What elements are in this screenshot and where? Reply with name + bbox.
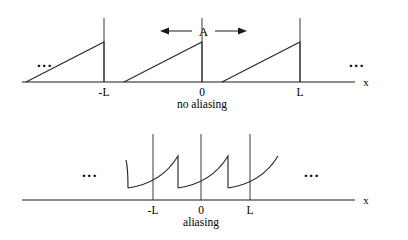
panel-no-aliasing: A ... ... x -L 0 L no aliasing [22, 18, 369, 111]
tick-label-zero-bottom: 0 [198, 204, 204, 216]
ellipsis-left-top: ... [37, 54, 53, 70]
amplitude-arrow-head-left [160, 28, 169, 35]
x-axis-label-bottom: x [363, 194, 369, 206]
ellipsis-left-bottom: ... [82, 164, 98, 180]
tick-label-zero-top: 0 [199, 86, 205, 98]
sawtooth-tooth-3 [222, 42, 300, 82]
waveform-no-aliasing [26, 42, 300, 82]
ellipsis-right-bottom: ... [304, 164, 320, 180]
aliased-tooth-0 [126, 160, 128, 188]
aliasing-diagram: A ... ... x -L 0 L no aliasing [0, 0, 408, 240]
tick-label-l-bottom: L [246, 204, 253, 216]
caption-aliasing: aliasing [183, 216, 219, 229]
sawtooth-tooth-2 [124, 42, 202, 82]
amplitude-annotation: A [160, 24, 247, 39]
x-axis-label-top: x [363, 76, 369, 88]
waveform-aliasing [126, 156, 278, 188]
amplitude-label: A [199, 24, 209, 39]
tick-label-minus-l-top: -L [99, 86, 110, 98]
aliased-tooth-3 [228, 156, 278, 188]
panel-aliasing: ... ... x -L 0 L aliasing [22, 134, 369, 229]
figure-root: A ... ... x -L 0 L no aliasing [0, 0, 408, 240]
tick-label-minus-l-bottom: -L [148, 204, 159, 216]
amplitude-arrow-head-right [238, 28, 247, 35]
caption-no-aliasing: no aliasing [177, 98, 227, 111]
aliased-tooth-2 [178, 156, 228, 188]
marker-lines-aliasing [153, 134, 250, 200]
tick-label-l-top: L [296, 86, 303, 98]
ellipsis-right-top: ... [349, 54, 365, 70]
